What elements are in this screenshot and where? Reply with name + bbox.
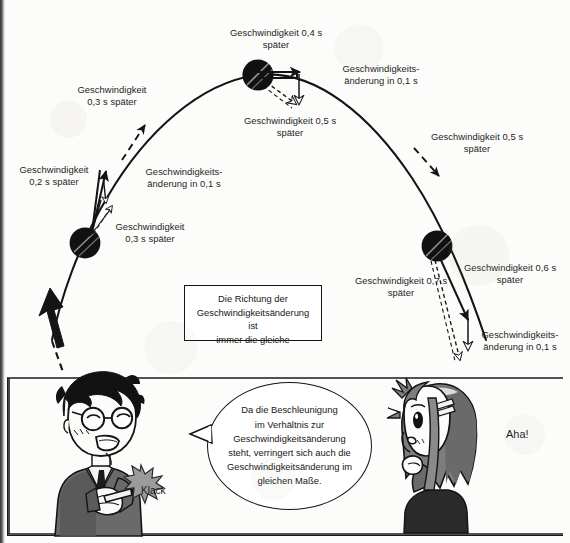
characters-layer bbox=[0, 0, 570, 543]
comic-page: Geschwindigkeit 0,2 s später Geschwindig… bbox=[0, 0, 570, 543]
exclamation-aha: Aha! bbox=[506, 428, 529, 440]
scan-edge-artifact bbox=[0, 0, 5, 543]
character-student bbox=[387, 378, 477, 533]
character-teacher bbox=[55, 372, 145, 536]
sound-effect-klack: Klack bbox=[141, 485, 165, 496]
